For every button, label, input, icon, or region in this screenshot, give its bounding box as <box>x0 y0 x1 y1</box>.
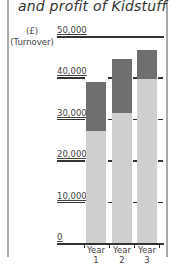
frame-left-border <box>7 0 9 257</box>
gridline-dash <box>158 160 163 162</box>
y-tick-label: 50,000 <box>57 25 87 35</box>
bar-segment-costs <box>112 113 132 243</box>
x-tick-mark <box>84 243 85 248</box>
bar-segment-profit <box>86 82 106 132</box>
gridline <box>57 160 85 162</box>
gridline <box>57 77 85 79</box>
y-tick-label: 30,000 <box>57 108 87 118</box>
bar-segment-profit <box>112 59 132 113</box>
x-tick-label: Year 3 <box>134 245 160 265</box>
bar-segment-costs <box>86 131 106 243</box>
bar-year-2 <box>112 59 132 243</box>
x-tick-label: Year 1 <box>83 245 109 265</box>
frame-right-border <box>166 0 168 257</box>
y-tick-label: 40,000 <box>57 66 87 76</box>
gridline <box>57 202 85 204</box>
bar-year-1 <box>86 82 106 243</box>
gridline-dash <box>158 119 163 121</box>
y-tick-label: 10,000 <box>57 191 87 201</box>
gridline <box>57 119 85 121</box>
bar-segment-costs <box>137 79 157 243</box>
y-tick-label: 20,000 <box>57 149 87 159</box>
y-axis-measure: (Turnover) <box>10 37 54 48</box>
y-axis-unit: (£) <box>10 26 54 37</box>
x-tick-label: Year 2 <box>109 245 135 265</box>
chart-title: and profit of Kidstuff <box>18 0 167 14</box>
gridline-dash <box>158 77 163 79</box>
x-tick-mark <box>109 243 110 248</box>
gridline <box>57 36 164 38</box>
gridline-dash <box>158 202 163 204</box>
y-axis-label: (£) (Turnover) <box>10 26 54 48</box>
x-tick-mark <box>134 243 135 248</box>
x-tick-mark <box>159 243 160 248</box>
bar-year-3 <box>137 50 157 243</box>
y-tick-label: 0 <box>57 232 62 242</box>
bar-segment-profit <box>137 50 157 79</box>
